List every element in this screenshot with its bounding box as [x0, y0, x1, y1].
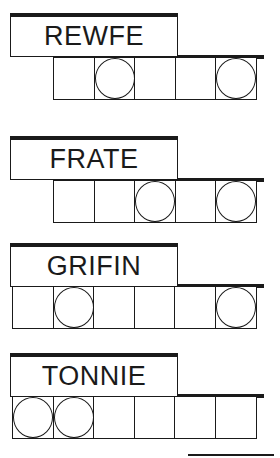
answer-cells [53, 57, 257, 100]
letter-cell[interactable] [134, 396, 176, 439]
letter-cell-circled[interactable] [53, 396, 95, 439]
scrambled-word-box: REWFE [10, 13, 178, 57]
letter-cell[interactable] [134, 57, 176, 100]
letter-cell-circled[interactable] [94, 57, 136, 100]
letter-cell-circled[interactable] [53, 286, 95, 329]
answer-cells [12, 286, 257, 329]
letter-cell-circled[interactable] [134, 180, 176, 223]
circle-icon [216, 287, 256, 328]
circle-icon [54, 397, 94, 438]
letter-cell-circled[interactable] [215, 57, 257, 100]
letter-cell[interactable] [175, 57, 217, 100]
circle-icon [216, 58, 256, 99]
scrambled-word: FRATE [50, 144, 139, 175]
letter-cell[interactable] [12, 286, 54, 329]
answer-cells [53, 180, 257, 223]
letter-cell[interactable] [93, 286, 135, 329]
letter-cell[interactable] [134, 286, 176, 329]
final-answer-line [188, 454, 274, 456]
scrambled-word: GRIFIN [47, 251, 142, 282]
letter-cell[interactable] [174, 286, 216, 329]
letter-cell[interactable] [215, 396, 257, 439]
letter-cell[interactable] [174, 396, 216, 439]
letter-cell[interactable] [53, 180, 95, 223]
letter-cell[interactable] [93, 396, 135, 439]
letter-cell-circled[interactable] [215, 180, 257, 223]
scrambled-word-box: TONNIE [10, 353, 178, 397]
scrambled-word: TONNIE [42, 361, 147, 392]
letter-cell-circled[interactable] [215, 286, 257, 329]
scrambled-word: REWFE [44, 21, 144, 52]
letter-cell[interactable] [94, 180, 136, 223]
circle-icon [135, 181, 175, 222]
letter-cell-circled[interactable] [12, 396, 54, 439]
circle-icon [13, 397, 53, 438]
circle-icon [95, 58, 135, 99]
circle-icon [54, 287, 94, 328]
letter-cell[interactable] [175, 180, 217, 223]
answer-cells [12, 396, 257, 439]
scrambled-word-box: FRATE [10, 136, 178, 180]
scrambled-word-box: GRIFIN [10, 243, 178, 287]
circle-icon [216, 181, 256, 222]
letter-cell[interactable] [53, 57, 95, 100]
